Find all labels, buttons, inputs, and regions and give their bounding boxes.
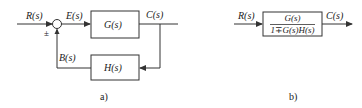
label-feedback-b: B(s) [59,53,76,63]
block-h-text: H(s) [104,63,122,73]
label-output-c: C(s) [146,10,163,20]
label-input-r: R(s) [26,11,43,21]
caption-b: b) [289,92,297,102]
caption-a: a) [100,92,108,102]
diagram-a [17,11,178,80]
label-input-r-b: R(s) [238,11,255,21]
block-g-text: G(s) [104,20,122,30]
label-error-e: E(s) [66,11,83,21]
label-output-c-b: C(s) [326,11,343,21]
transfer-numerator: G(s) [263,14,322,23]
sign-plus-minus: ± [44,29,49,38]
feedback-arrowhead [55,29,60,35]
transfer-denominator: 1∓G(s)H(s) [263,26,322,35]
summing-junction [53,20,62,29]
